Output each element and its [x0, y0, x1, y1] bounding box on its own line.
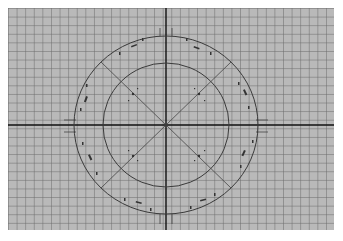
circle-diagram: [0, 0, 343, 241]
